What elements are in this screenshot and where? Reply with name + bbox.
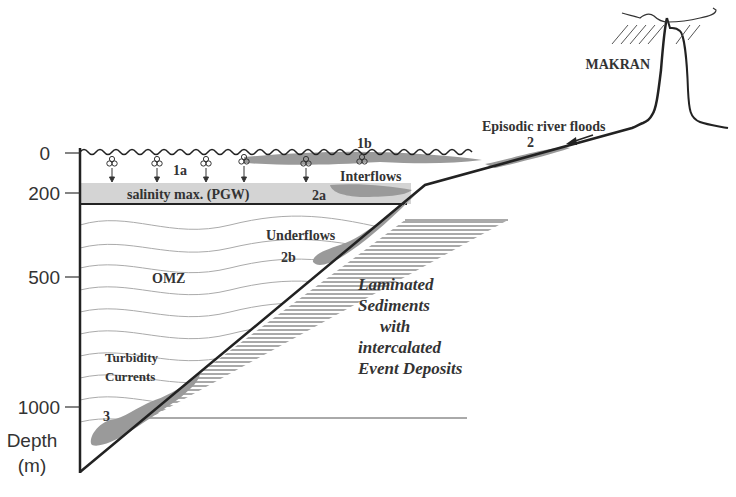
label-process-3: 3	[103, 409, 110, 424]
label-process-2: 2	[527, 135, 534, 150]
tick-label-200: 200	[28, 183, 60, 204]
label-process-1a: 1a	[173, 163, 187, 178]
label-interflows: Interflows	[340, 169, 402, 184]
tick-label-0: 0	[39, 143, 50, 164]
label-salinity-max: salinity max. (PGW)	[127, 187, 250, 203]
label-omz: OMZ	[152, 271, 185, 286]
laminated-sediment-hatching	[100, 222, 520, 414]
makran-mountain-back	[667, 18, 728, 128]
label-episodic-river-floods: Episodic river floods	[482, 119, 606, 134]
makran-margin-cross-section: 0 200 500 1000 Depth (m) MAKRAN Episodic…	[0, 0, 736, 497]
particle-icon	[107, 156, 117, 182]
label-turbidity: Turbidity	[105, 350, 158, 365]
label-process-1b: 1b	[357, 136, 372, 151]
tick-label-500: 500	[28, 267, 60, 288]
axis-title-unit: (m)	[18, 455, 46, 476]
label-sediments: Sediments	[358, 296, 430, 315]
tick-label-1000: 1000	[18, 397, 60, 418]
axis-title-depth: Depth	[7, 430, 58, 451]
label-currents: Currents	[105, 369, 155, 384]
particle-icon	[152, 156, 162, 182]
rain-hatching	[612, 25, 700, 44]
label-laminated: Laminated	[357, 275, 434, 294]
sea-surface-line	[80, 150, 472, 155]
label-with: with	[380, 317, 410, 336]
label-event-deposits: Event Deposits	[357, 359, 463, 378]
label-process-2a: 2a	[312, 188, 326, 203]
label-makran: MAKRAN	[585, 57, 650, 72]
label-intercalated: intercalated	[358, 338, 442, 357]
label-process-2b: 2b	[281, 250, 296, 265]
cloud-outline	[622, 8, 716, 22]
particle-icon	[201, 156, 211, 182]
label-underflows: Underflows	[266, 228, 336, 243]
